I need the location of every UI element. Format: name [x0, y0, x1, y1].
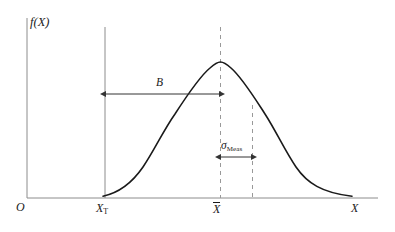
y-axis-label: f(X) — [30, 16, 49, 29]
mean-label-base: X — [213, 202, 220, 215]
threshold-label-subscript: T — [103, 207, 108, 216]
gaussian-curve — [103, 62, 352, 196]
distribution-figure: f(X) O XT X X B σMeas — [0, 0, 395, 232]
mean-label-xbar: X — [213, 202, 220, 215]
x-axis-label: X — [351, 202, 358, 214]
threshold-label-xt: XT — [96, 202, 108, 216]
sigma-subscript: Meas — [227, 145, 243, 153]
figure-canvas — [0, 0, 395, 232]
bias-label: B — [156, 77, 163, 89]
origin-label: O — [16, 201, 25, 213]
sigma-label: σMeas — [221, 140, 242, 153]
